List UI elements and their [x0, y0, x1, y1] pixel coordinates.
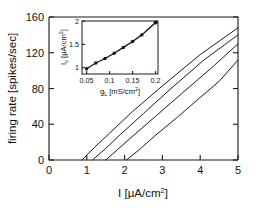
inset-x-tick-label: 0.15	[126, 76, 140, 85]
figure-svg: 0 40 80 120 160 0 1 2 3 4 5 firing rate …	[0, 0, 258, 208]
inset-y-axis-label: Ic [μA/cm2]	[58, 29, 69, 65]
inset-x-tick-label: 0.1	[105, 76, 115, 85]
x-tick-label: 1	[84, 164, 90, 176]
x-tick-label: 5	[235, 164, 241, 176]
inset-x-axis-label: gL [mS/cm2]	[100, 86, 140, 97]
x-tick-label: 3	[159, 164, 165, 176]
inset-y-tick-label: 1	[75, 63, 79, 72]
inset-data-point	[122, 46, 125, 49]
inset-x-label-close: ]	[138, 87, 140, 96]
inset-y-tick-label: 1.5	[69, 40, 79, 49]
x-tick-label: 2	[122, 164, 128, 176]
y-axis-label: firing rate [spikes/sec]	[6, 33, 18, 144]
inset-plot: 1 1.5 2 0.05 0.1 0.15 0.2 Ic [μA/cm2] gL…	[58, 17, 160, 97]
inset-data-point	[113, 52, 116, 55]
inset-data-point	[131, 40, 134, 43]
inset-frame	[82, 21, 158, 74]
main-y-tick-labels: 0 40 80 120 160	[26, 11, 44, 166]
x-axis-label: I [μA/cm2]	[118, 186, 168, 199]
x-axis-label-units: μA/cm	[128, 187, 161, 199]
y-tick-label: 160	[26, 11, 44, 23]
y-tick-label: 40	[32, 118, 44, 130]
y-tick-label: 120	[26, 47, 44, 59]
x-tick-label: 4	[197, 164, 203, 176]
fi-curve-4	[127, 60, 239, 160]
main-x-ticks	[49, 155, 238, 160]
y-tick-label: 0	[38, 154, 44, 166]
inset-x-tick-label: 0.2	[151, 76, 161, 85]
inset-x-label-open: [mS/cm	[107, 87, 135, 96]
inset-data-point	[140, 33, 143, 36]
inset-y-label-close: ]	[59, 29, 68, 31]
inset-data-point	[94, 61, 97, 64]
x-axis-label-close: ]	[165, 187, 168, 199]
inset-y-tick-label: 2	[75, 17, 79, 26]
inset-x-tick-labels: 0.05 0.1 0.15 0.2	[80, 76, 161, 85]
inset-data-point	[154, 20, 158, 24]
y-tick-label: 80	[32, 83, 44, 95]
inset-data-point	[103, 57, 106, 60]
figure-container: 0 40 80 120 160 0 1 2 3 4 5 firing rate …	[0, 0, 258, 208]
inset-data-point	[85, 67, 88, 70]
x-tick-label: 0	[46, 164, 52, 176]
main-x-tick-labels: 0 1 2 3 4 5	[46, 164, 241, 176]
inset-x-tick-label: 0.05	[80, 76, 94, 85]
inset-y-tick-labels: 1 1.5 2	[69, 17, 79, 73]
inset-y-label-open: [μA/cm	[59, 34, 68, 60]
